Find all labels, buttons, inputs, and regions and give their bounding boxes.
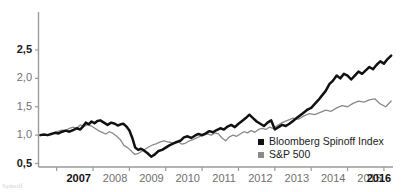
x-axis-tick-label: 2014 (316, 172, 350, 184)
y-axis-tick-label: 2,0 (4, 71, 32, 83)
y-axis-tick-label: 1,0 (4, 128, 32, 140)
legend-swatch-icon-sp500 (258, 152, 264, 158)
footer-note: Spinoff (2, 182, 23, 190)
x-axis-tick-label: 2008 (98, 172, 132, 184)
x-axis-tick-label: 2013 (280, 172, 314, 184)
x-axis-tick-label: 2012 (243, 172, 277, 184)
y-axis-tick-label: 0,5 (4, 157, 32, 169)
chart-legend: Bloomberg Spinoff Index S&P 500 (258, 135, 384, 161)
x-axis-tick-label: 2016 (362, 172, 396, 184)
line-chart-plot (0, 0, 407, 192)
x-axis-tick-label: 2007 (62, 172, 96, 184)
x-axis-tick-label: 2009 (134, 172, 168, 184)
chart-container: 2,52,01,51,00,5 200720082009201020112012… (0, 0, 407, 192)
legend-label-bloomberg: Bloomberg Spinoff Index (269, 135, 384, 148)
x-axis-tick-label: 2011 (207, 172, 241, 184)
legend-label-sp500: S&P 500 (269, 148, 310, 161)
y-axis-tick-label: 2,5 (4, 43, 32, 55)
legend-item-sp-500: S&P 500 (258, 148, 384, 161)
y-axis-label-group: 2,52,01,51,00,5 (3, 0, 32, 192)
legend-item-bloomberg-spinoff-index: Bloomberg Spinoff Index (258, 135, 384, 148)
legend-swatch-icon-bloomberg (258, 139, 264, 145)
x-axis-tick-label: 2010 (171, 172, 205, 184)
y-axis-tick-label: 1,5 (4, 100, 32, 112)
